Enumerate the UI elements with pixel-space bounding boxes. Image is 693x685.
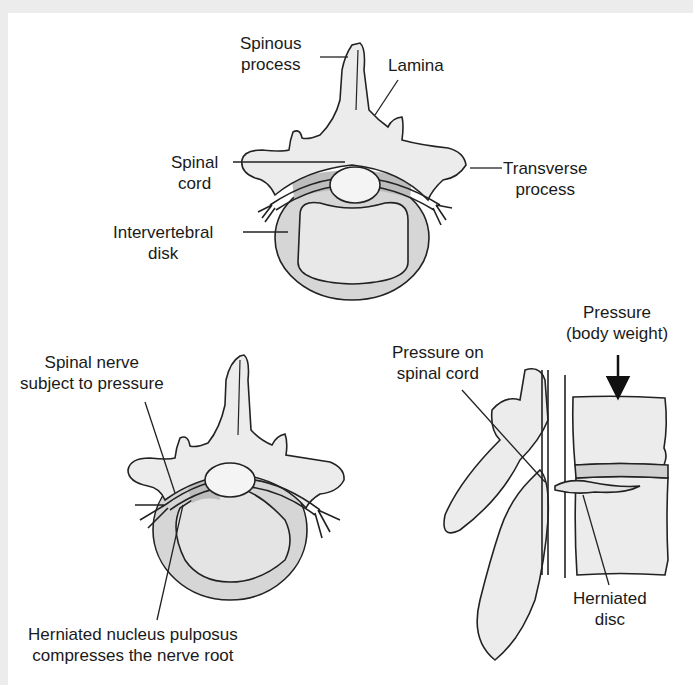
top-vertebra [242,43,466,300]
label-spinous-process: Spinous process [240,33,301,75]
label-pressure-on-spinal-cord: Pressure on spinal cord [392,342,484,384]
label-intervertebral-disk: Intervertebral disk [113,222,213,264]
label-spinal-cord: Spinal cord [171,152,218,194]
spinal-cord-shape [330,167,380,203]
label-herniated-nucleus: Herniated nucleus pulposus compresses th… [28,624,238,666]
label-transverse-process: Transverse process [503,158,587,200]
label-pressure-body-weight: Pressure (body weight) [566,302,668,344]
nucleus-pulposus [298,203,408,285]
label-lamina: Lamina [388,55,444,76]
label-spinal-nerve: Spinal nerve subject to pressure [20,352,164,394]
label-herniated-disc: Herniated disc [573,588,647,630]
